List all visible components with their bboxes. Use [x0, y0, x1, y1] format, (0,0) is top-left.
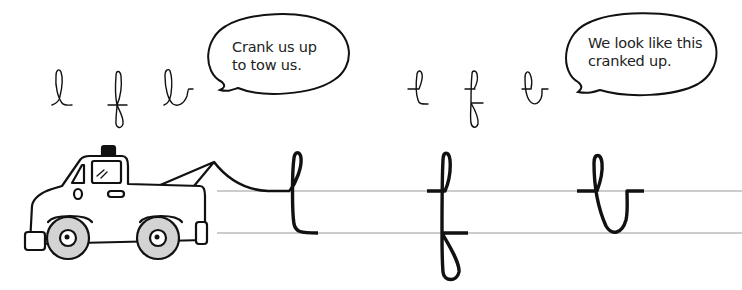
truck-light: [74, 189, 82, 199]
tow-boom: [158, 162, 214, 186]
tow-cable: [214, 162, 290, 191]
speech-bubble-left-text: Crank us up to tow us.: [232, 38, 317, 74]
bubble-right-line1: We look like this: [588, 35, 702, 51]
small-letters-cranked: [408, 71, 548, 127]
bubble-left-line1: Crank us up: [232, 39, 317, 55]
door-handle: [108, 191, 124, 197]
bubble-left-line2: to tow us.: [232, 57, 302, 73]
letter-b-small-cranked: [522, 72, 548, 104]
letter-b-small: [164, 70, 193, 106]
letter-f-small-cranked: [465, 71, 483, 127]
tow-truck-icon: [25, 146, 214, 259]
letter-l-small-cranked: [408, 71, 428, 104]
letter-l-small: [52, 70, 72, 105]
front-bumper: [25, 232, 45, 250]
letter-l-large: [290, 153, 318, 233]
small-letters-normal: [52, 70, 193, 128]
rear-wheel: [137, 217, 179, 259]
bubble-right-line2: cranked up.: [588, 53, 671, 69]
letter-b-large: [577, 156, 644, 233]
large-letters-practice: [214, 153, 644, 280]
rear-bumper: [196, 222, 207, 244]
letter-f-large: [427, 153, 468, 279]
speech-bubble-right-text: We look like this cranked up.: [588, 34, 702, 70]
letter-f-small: [108, 72, 127, 128]
front-wheel: [47, 217, 89, 259]
